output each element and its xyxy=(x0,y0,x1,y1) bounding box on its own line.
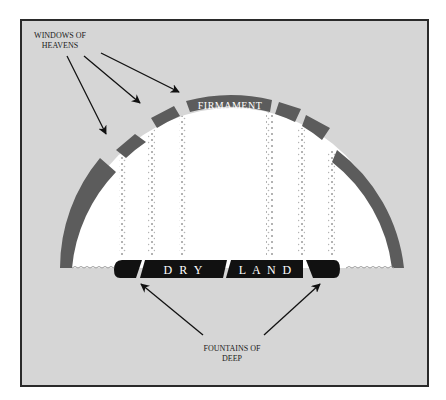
windows-label-line2: HEAVENS xyxy=(42,41,78,50)
arrow-icon xyxy=(84,56,140,103)
arrow-icon xyxy=(101,53,179,92)
arrow-icon xyxy=(67,56,106,134)
arrow-icon xyxy=(264,284,320,335)
rain-column xyxy=(298,128,305,255)
fountains-label-line1: FOUNTAINS OF xyxy=(204,344,261,353)
rain-column xyxy=(179,112,186,255)
fountains-label-line2: DEEP xyxy=(222,354,243,363)
windows-label-line1: WINDOWS OF xyxy=(34,31,86,40)
rain-column xyxy=(148,128,155,255)
cosmology-diagram: FIRMAMENT D R Y L A N D WINDOWS OF HEAVE… xyxy=(0,0,446,400)
arrow-icon xyxy=(141,284,203,335)
land-segment xyxy=(114,260,142,278)
fountains-arrows xyxy=(141,284,320,335)
dry-label: D R Y xyxy=(164,263,205,277)
rain-column xyxy=(328,150,335,255)
firmament-label: FIRMAMENT xyxy=(198,100,263,111)
rain-column xyxy=(119,150,126,255)
land-segment xyxy=(306,260,340,278)
land-label: L A N D xyxy=(239,263,294,277)
rain-column xyxy=(266,112,273,255)
